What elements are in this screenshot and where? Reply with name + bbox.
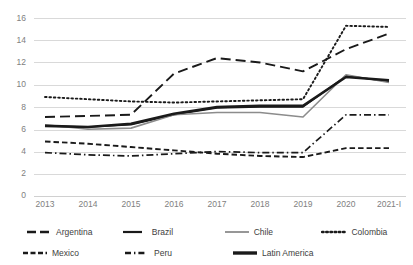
legend-label: Latin America	[262, 248, 314, 258]
x-tick-label: 2016	[150, 200, 198, 209]
y-tick-label: 8	[0, 103, 26, 112]
x-tick-label: 2018	[236, 200, 284, 209]
legend: Argentina Brazil Chile Colombia	[22, 222, 402, 264]
plot-area	[34, 18, 406, 197]
x-tick-label: 2014	[64, 200, 112, 209]
legend-swatch-chile	[224, 227, 250, 237]
x-tick-label: 2020	[322, 200, 370, 209]
x-tick-label: 2015	[107, 200, 155, 209]
legend-label: Argentina	[56, 227, 92, 237]
legend-swatch-latin-america	[232, 248, 258, 258]
legend-swatch-mexico	[22, 248, 48, 258]
legend-item-argentina[interactable]: Argentina	[22, 222, 118, 241]
legend-row: Argentina Brazil Chile Colombia	[22, 222, 402, 241]
y-tick-label: 4	[0, 147, 26, 156]
y-tick-label: 10	[0, 80, 26, 89]
series-lines	[34, 18, 406, 197]
x-tick-label: 2021-I	[365, 200, 413, 209]
legend-label: Peru	[154, 248, 172, 258]
legend-item-latin-america[interactable]: Latin America	[222, 243, 362, 262]
legend-row: Mexico Peru Latin America	[22, 243, 402, 262]
x-tick-label: 2013	[21, 200, 69, 209]
y-tick-label: 12	[0, 58, 26, 67]
legend-swatch-peru	[124, 248, 150, 258]
legend-label: Chile	[254, 227, 273, 237]
line-chart: 16 14 12 10 8 6 4 2 0 2013 2014 2015 201…	[0, 0, 413, 265]
legend-label: Mexico	[52, 248, 79, 258]
legend-swatch-argentina	[26, 227, 52, 237]
legend-item-peru[interactable]: Peru	[120, 243, 222, 262]
y-tick-label: 2	[0, 169, 26, 178]
series-line-argentina	[45, 34, 389, 117]
x-tick-label: 2019	[279, 200, 327, 209]
y-tick-label: 6	[0, 125, 26, 134]
legend-item-brazil[interactable]: Brazil	[118, 222, 214, 241]
y-tick-label: 16	[0, 14, 26, 23]
y-tick-label: 0	[0, 191, 26, 200]
series-line-colombia	[45, 26, 389, 103]
legend-swatch-colombia	[321, 227, 347, 237]
series-line-mexico	[45, 141, 389, 157]
legend-item-colombia[interactable]: Colombia	[315, 222, 402, 241]
legend-label: Colombia	[351, 227, 387, 237]
x-tick-label: 2017	[193, 200, 241, 209]
legend-item-mexico[interactable]: Mexico	[22, 243, 120, 262]
legend-swatch-brazil	[122, 227, 148, 237]
legend-item-chile[interactable]: Chile	[214, 222, 316, 241]
y-tick-label: 14	[0, 36, 26, 45]
legend-label: Brazil	[152, 227, 173, 237]
